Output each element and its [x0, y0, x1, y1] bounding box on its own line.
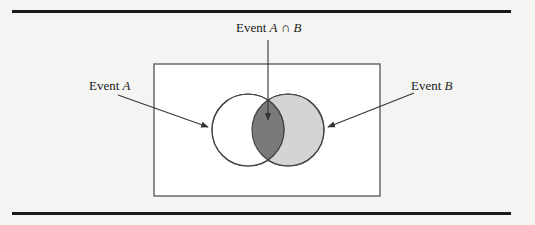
label-event-b: Event B	[411, 78, 453, 94]
label-intersection: Event A ∩ B	[236, 20, 301, 36]
label-event-a: Event A	[89, 78, 131, 94]
